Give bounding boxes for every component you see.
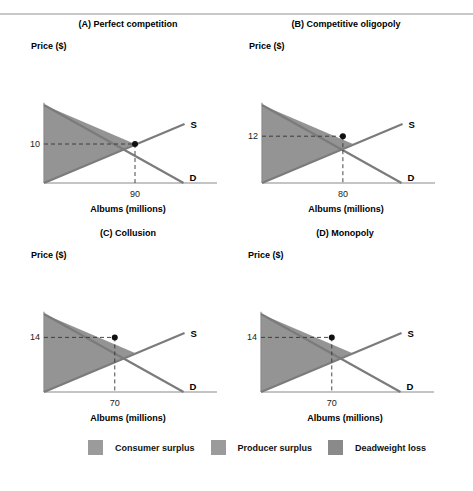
- outcome-point: [329, 334, 335, 340]
- legend-label: Deadweight loss: [355, 443, 426, 453]
- x-tick-label: 80: [338, 189, 348, 199]
- y-axis-label: Price ($): [249, 41, 285, 51]
- y-tick-label: 14: [247, 332, 257, 342]
- surplus-area: [262, 105, 353, 183]
- legend-swatch: [88, 440, 103, 455]
- surplus-area: [261, 314, 352, 392]
- x-tick-label: 90: [130, 189, 140, 199]
- x-tick-label: 70: [110, 398, 120, 408]
- x-axis-label: Albums (millions): [308, 204, 384, 214]
- y-axis-label: Price ($): [31, 250, 67, 260]
- supply-label: S: [408, 328, 414, 339]
- supply-label: S: [191, 119, 197, 130]
- legend: Consumer surplus Producer surplus Deadwe…: [88, 440, 442, 455]
- supply-label: S: [409, 119, 415, 130]
- y-tick-label: 10: [30, 139, 40, 149]
- demand-label: D: [407, 381, 414, 392]
- x-tick-label: 70: [327, 398, 337, 408]
- legend-item-consumer-surplus: Consumer surplus: [88, 440, 195, 455]
- surplus-area: [44, 314, 135, 392]
- panel-title: (B) Competitive oligopoly: [292, 19, 401, 29]
- panel-title: (D) Monopoly: [316, 228, 374, 238]
- demand-label: D: [190, 172, 197, 183]
- legend-swatch: [328, 440, 343, 455]
- outcome-point: [112, 334, 118, 340]
- figure: SD1090(A) Perfect competitionPrice ($)Al…: [0, 0, 473, 491]
- supply-label: S: [191, 328, 197, 339]
- y-tick-label: 12: [248, 131, 258, 141]
- panel-title: (A) Perfect competition: [78, 19, 177, 29]
- legend-swatch: [211, 440, 226, 455]
- y-tick-label: 14: [30, 332, 40, 342]
- x-axis-label: Albums (millions): [90, 204, 166, 214]
- panel-title: (C) Collusion: [100, 228, 156, 238]
- demand-label: D: [190, 381, 197, 392]
- outcome-point: [132, 141, 138, 147]
- legend-label: Producer surplus: [238, 443, 313, 453]
- legend-label: Consumer surplus: [115, 443, 195, 453]
- legend-item-producer-surplus: Producer surplus: [211, 440, 313, 455]
- demand-label: D: [408, 172, 415, 183]
- x-axis-label: Albums (millions): [90, 413, 166, 423]
- legend-item-deadweight-loss: Deadweight loss: [328, 440, 426, 455]
- x-axis-label: Albums (millions): [307, 413, 383, 423]
- outcome-point: [340, 133, 346, 139]
- y-axis-label: Price ($): [31, 41, 67, 51]
- y-axis-label: Price ($): [248, 250, 284, 260]
